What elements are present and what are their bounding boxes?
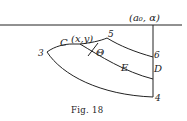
figure-caption: Fig. 18 xyxy=(71,105,103,115)
label-e: E xyxy=(120,62,129,73)
label-5: 5 xyxy=(108,29,114,39)
corner-label: (a₀, α) xyxy=(129,12,160,23)
label-4: 4 xyxy=(154,93,161,103)
figure-18-diagram: (a₀, α) C (x,y) 3 5 Θ 6 E D 4 Fig. 18 xyxy=(0,0,187,121)
arc-e xyxy=(80,44,153,79)
label-3: 3 xyxy=(38,48,44,58)
label-6: 6 xyxy=(154,50,160,60)
arc-5-6 xyxy=(107,38,153,57)
label-d: D xyxy=(153,63,162,74)
point-label: (x,y) xyxy=(71,33,93,44)
label-c: C xyxy=(60,37,68,48)
angle-theta: Θ xyxy=(96,47,104,58)
